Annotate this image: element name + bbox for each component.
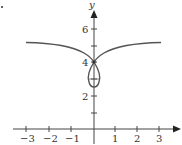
- y-axis-label: y: [88, 0, 95, 10]
- corner-mark: [1, 6, 3, 8]
- curve-right-branch: [94, 43, 161, 63]
- y-tick-label: 6: [82, 24, 88, 35]
- x-tick-label: 3: [156, 133, 162, 144]
- x-tick-label: 1: [112, 133, 118, 144]
- intersection-point: [92, 60, 95, 63]
- y-tick-label: 4: [82, 57, 88, 68]
- y-tick-label: 2: [82, 91, 88, 102]
- y-axis-arrow-icon: [91, 10, 98, 18]
- x-tick-label: −2: [43, 133, 58, 144]
- x-tick-label: −3: [20, 133, 35, 144]
- chart: y −3 −2 −1 1 2 3 2 4 6: [0, 0, 182, 145]
- x-tick-label: 2: [134, 133, 140, 144]
- x-tick-label: −1: [65, 133, 80, 144]
- x-axis-arrow-icon: [173, 126, 181, 133]
